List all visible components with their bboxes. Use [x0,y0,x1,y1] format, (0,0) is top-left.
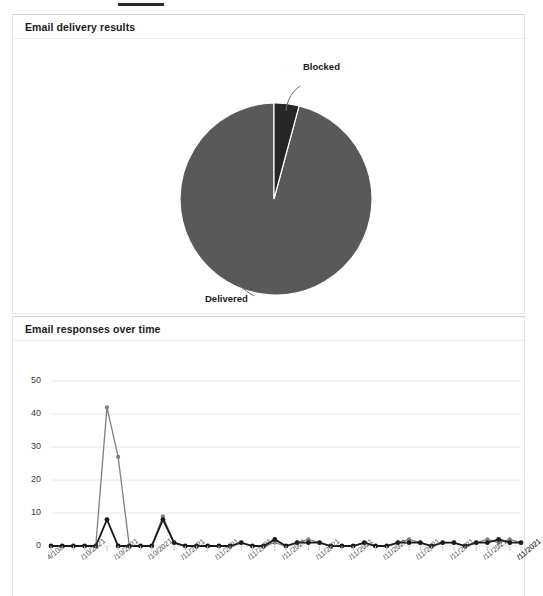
series-0-point-6[interactable] [116,455,120,459]
gridlines [51,381,521,546]
card-title-email-delivery-results: Email delivery results [13,15,524,39]
series-1-point-24[interactable] [317,540,322,545]
line-chart: 01020304050 4/10/.../10/2021/10/2021/10/… [13,341,524,595]
card-email-responses-over-time: Email responses over time 01020304050 4/… [12,316,525,596]
y-axis-label-30: 30 [15,441,41,451]
series-1-point-20[interactable] [272,537,277,542]
data-series [49,405,524,548]
series-line-1[interactable] [51,520,521,546]
y-axis-label-10: 10 [15,507,41,517]
y-axis-label-50: 50 [15,375,41,385]
series-1-point-42[interactable] [519,540,524,545]
y-axis-label-0: 0 [15,540,41,550]
pie-label-delivered: Delivered [205,293,248,304]
y-axis-label-20: 20 [15,474,41,484]
series-0-point-5[interactable] [105,405,109,409]
series-1-point-36[interactable] [451,540,456,545]
card-email-delivery-results: Email delivery results Blocked Delivered [12,14,525,314]
card-body-email-responses-over-time: 01020304050 4/10/.../10/2021/10/2021/10/… [13,341,524,595]
card-title-email-responses-over-time: Email responses over time [13,317,524,341]
series-1-point-5[interactable] [105,517,110,522]
pie-chart-svg [13,39,524,313]
series-1-point-33[interactable] [418,540,423,545]
card-body-email-delivery-results: Blocked Delivered [13,39,524,313]
pie-label-blocked: Blocked [303,61,340,72]
pie-chart: Blocked Delivered [13,39,524,313]
series-1-point-39[interactable] [485,540,490,545]
series-1-point-10[interactable] [161,517,166,522]
series-line-0[interactable] [51,407,521,546]
y-axis-label-40: 40 [15,408,41,418]
top-divider [118,3,164,6]
